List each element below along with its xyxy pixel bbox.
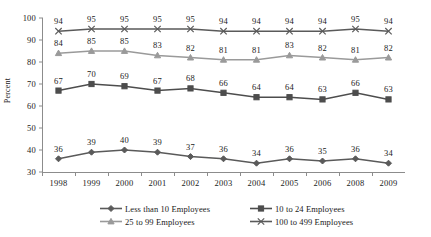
data-point-label: 94 [219, 16, 228, 26]
data-point-label: 82 [318, 43, 327, 53]
x-axis-tick-mark [75, 172, 76, 176]
x-axis-tick-label: 1998 [50, 178, 68, 188]
y-axis-tick-label: 100 [14, 13, 36, 23]
data-point-label: 95 [120, 14, 129, 24]
legend-label: Less than 10 Employees [125, 204, 210, 214]
data-point-label: 67 [54, 76, 63, 86]
x-axis-line [42, 172, 405, 173]
data-point-label: 81 [351, 45, 360, 55]
data-point-label: 82 [186, 43, 195, 53]
y-axis-tick-mark [39, 150, 43, 151]
data-point-label: 69 [120, 71, 129, 81]
x-axis-tick-label: 2005 [281, 178, 299, 188]
data-point-label: 34 [384, 148, 393, 158]
data-point-label: 94 [285, 16, 294, 26]
data-point-label: 95 [351, 14, 360, 24]
data-point-label: 35 [318, 146, 327, 156]
legend-item[interactable]: 10 to 24 Employees [250, 204, 360, 214]
legend-item[interactable]: 100 to 499 Employees [250, 217, 360, 227]
data-point-label: 81 [252, 45, 261, 55]
legend-item[interactable]: 25 to 99 Employees [100, 217, 250, 227]
y-axis-tick-mark [39, 40, 43, 41]
data-point-label: 36 [285, 144, 294, 154]
data-point-label: 40 [120, 135, 129, 145]
data-point-label: 64 [252, 82, 261, 92]
legend-marker-cross-icon [250, 217, 272, 226]
data-point-label: 82 [384, 43, 393, 53]
y-axis-tick-label: 50 [14, 123, 36, 133]
data-point-label: 67 [153, 76, 162, 86]
x-axis-tick-label: 1999 [83, 178, 101, 188]
x-axis-tick-label: 2000 [116, 178, 134, 188]
data-point-label: 66 [219, 78, 228, 88]
legend-label: 100 to 499 Employees [275, 217, 353, 227]
y-axis-tick-mark [39, 62, 43, 63]
x-axis-tick-label: 2006 [314, 178, 332, 188]
y-axis-title: Percent [3, 69, 12, 113]
data-point-label: 68 [186, 73, 195, 83]
data-point-label: 34 [252, 148, 261, 158]
data-point-label: 39 [87, 137, 96, 147]
x-axis-tick-mark [339, 172, 340, 176]
data-point-label: 94 [54, 16, 63, 26]
y-axis-tick-mark [39, 106, 43, 107]
x-axis-tick-mark [108, 172, 109, 176]
data-point-label: 95 [153, 14, 162, 24]
x-axis-tick-label: 2009 [380, 178, 398, 188]
line-chart: Percent 30405060708090100 19981999200020… [0, 0, 431, 237]
data-point-label: 36 [219, 144, 228, 154]
series-line [59, 29, 389, 31]
legend-label: 25 to 99 Employees [125, 217, 195, 227]
data-point-label: 95 [87, 14, 96, 24]
data-point-label: 83 [153, 40, 162, 50]
chart-legend: Less than 10 Employees10 to 24 Employees… [100, 202, 360, 228]
y-axis-tick-label: 80 [14, 57, 36, 67]
legend-marker-diamond-icon [100, 204, 122, 213]
x-axis-tick-mark [141, 172, 142, 176]
x-axis-tick-label: 2004 [248, 178, 266, 188]
x-axis-tick-label: 2001 [149, 178, 167, 188]
y-axis-tick-mark [39, 18, 43, 19]
y-axis-tick-mark [39, 128, 43, 129]
data-point-label: 84 [54, 38, 63, 48]
y-axis-tick-label: 30 [14, 167, 36, 177]
data-point-label: 85 [87, 36, 96, 46]
y-axis-tick-label: 40 [14, 145, 36, 155]
x-axis-tick-label: 2002 [182, 178, 200, 188]
data-point-label: 94 [252, 16, 261, 26]
y-axis-tick-mark [39, 84, 43, 85]
data-point-label: 37 [186, 142, 195, 152]
data-point-label: 64 [285, 82, 294, 92]
legend-marker-triangle-icon [100, 217, 122, 226]
data-point-label: 36 [351, 144, 360, 154]
data-point-label: 95 [186, 14, 195, 24]
data-point-label: 39 [153, 137, 162, 147]
data-point-label: 81 [219, 45, 228, 55]
data-point-label: 94 [318, 16, 327, 26]
x-axis-tick-mark [240, 172, 241, 176]
legend-marker-square-icon [250, 204, 272, 213]
x-axis-tick-label: 2008 [347, 178, 365, 188]
x-axis-tick-mark [273, 172, 274, 176]
y-axis-tick-label: 90 [14, 35, 36, 45]
data-point-label: 94 [384, 16, 393, 26]
x-axis-tick-mark [42, 172, 43, 176]
data-point-label: 63 [318, 84, 327, 94]
x-axis-tick-mark [306, 172, 307, 176]
x-axis-tick-mark [372, 172, 373, 176]
data-point-label: 70 [87, 69, 96, 79]
x-axis-tick-mark [207, 172, 208, 176]
x-axis-tick-mark [174, 172, 175, 176]
y-axis-tick-label: 60 [14, 101, 36, 111]
data-point-label: 66 [351, 78, 360, 88]
x-axis-tick-label: 2003 [215, 178, 233, 188]
data-point-label: 36 [54, 144, 63, 154]
data-point-label: 83 [285, 40, 294, 50]
data-point-label: 63 [384, 84, 393, 94]
legend-label: 10 to 24 Employees [275, 204, 345, 214]
caption-clipped [0, 233, 431, 237]
data-point-label: 85 [120, 36, 129, 46]
legend-item[interactable]: Less than 10 Employees [100, 204, 250, 214]
y-axis-tick-label: 70 [14, 79, 36, 89]
